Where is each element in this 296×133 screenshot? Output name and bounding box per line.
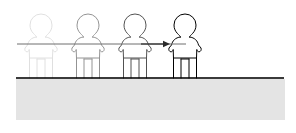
figure-head <box>124 14 146 37</box>
figure-torso-and-arms <box>119 37 151 58</box>
person-figure <box>119 14 151 78</box>
person-figure <box>25 14 57 78</box>
figure-torso-and-arms <box>25 37 57 58</box>
motion-arrow <box>141 41 170 47</box>
figure-torso-and-arms <box>169 37 201 58</box>
figure-legs <box>174 58 197 78</box>
person-figure <box>72 14 104 78</box>
person-figure <box>169 14 201 78</box>
figure-legs <box>124 58 147 78</box>
ground-fill <box>16 79 285 120</box>
illustration-canvas <box>0 0 296 133</box>
figures-group <box>25 14 201 78</box>
figure-torso-and-arms <box>72 37 104 58</box>
ground-group <box>16 78 285 120</box>
figure-legs <box>30 58 53 78</box>
person-walking-sequence-figure <box>0 0 296 133</box>
figure-head <box>77 14 99 37</box>
figure-legs <box>77 58 100 78</box>
figure-head <box>30 14 52 37</box>
motion-arrow-head <box>163 41 170 47</box>
figure-head <box>174 14 196 37</box>
